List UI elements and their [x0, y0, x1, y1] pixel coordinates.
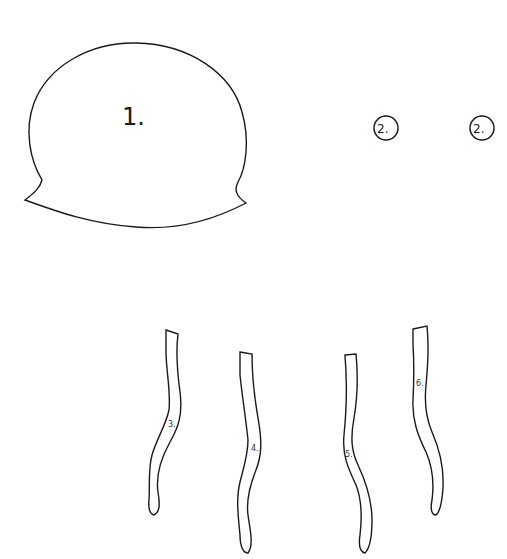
piece-4-tentacle: 4.	[238, 352, 261, 553]
eye-label: 2.	[473, 122, 484, 136]
piece-1-bell: 1.	[25, 43, 246, 228]
piece-3-tentacle: 3.	[149, 330, 181, 515]
tentacle-outline	[149, 330, 181, 515]
tentacle-label: 3.	[168, 420, 176, 429]
tentacle-label: 4.	[251, 444, 259, 453]
tentacle-label: 6.	[416, 379, 424, 388]
eye-label: 2.	[377, 122, 388, 136]
piece-2-eye-right: 2.	[470, 116, 494, 140]
tentacle-label: 5.	[345, 450, 353, 459]
bell-outline	[25, 43, 246, 228]
piece-6-tentacle: 6.	[413, 326, 443, 515]
template-canvas: 1. 2. 2. 3. 4. 5. 6.	[0, 0, 507, 559]
tentacle-outline	[413, 326, 443, 515]
piece-2-eye-left: 2.	[374, 116, 398, 140]
piece-5-tentacle: 5.	[344, 354, 372, 553]
bell-label: 1.	[122, 103, 145, 131]
